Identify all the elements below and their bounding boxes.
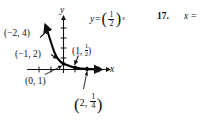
point-label-one-close: ) bbox=[88, 46, 91, 56]
equation-label: y = ( 1 2 )x bbox=[90, 11, 125, 28]
point-label-two: (2, 1 4 ) bbox=[74, 93, 102, 111]
fraction-one-quarter-numerator: 1 bbox=[90, 93, 96, 101]
point-label-zero: (0, 1) bbox=[25, 77, 46, 87]
point-label-two-x: 2, bbox=[80, 97, 90, 108]
point-label-neg2-close: ) bbox=[27, 28, 30, 38]
paren-close-eq: ) bbox=[116, 13, 121, 26]
leader-zero bbox=[45, 66, 62, 75]
leader-neg2 bbox=[40, 30, 48, 38]
point-label-neg1-close: ) bbox=[38, 49, 41, 59]
equation-relation: = bbox=[95, 15, 100, 25]
fraction-one-quarter-denominator: 4 bbox=[90, 101, 96, 110]
point-2-quarter bbox=[85, 67, 89, 71]
paren-open-eq: ( bbox=[102, 13, 107, 26]
point-0-1 bbox=[62, 62, 66, 66]
leader-two bbox=[84, 72, 88, 89]
figure-page: y x (−2, 4) (−1, 2) (0, 1) (1, 1 2 ) (2,… bbox=[0, 0, 219, 122]
equation-exponent: x bbox=[122, 16, 125, 22]
x-axis-label: x bbox=[110, 64, 114, 74]
point-label-neg2-open: (−2, bbox=[4, 28, 22, 38]
fraction-base-denominator: 2 bbox=[108, 19, 114, 28]
equation-lhs: y bbox=[90, 15, 94, 25]
point-label-one: (1, 1 2 ) bbox=[72, 43, 91, 58]
point-label-zero-close: ) bbox=[42, 76, 45, 86]
point-label-one-open: (1, bbox=[72, 46, 85, 56]
point-label-neg1: (−1, 2) bbox=[15, 50, 41, 60]
point-label-neg2: (−2, 4) bbox=[4, 29, 30, 39]
exercise-statement: x = bbox=[184, 11, 197, 21]
fraction-one-quarter: 1 4 bbox=[90, 93, 96, 111]
point-label-neg1-open: (−1, bbox=[15, 49, 33, 59]
paren-close-two: ) bbox=[97, 98, 103, 112]
point-label-zero-open: (0, bbox=[25, 76, 38, 86]
fraction-one-half-base: 1 2 bbox=[108, 11, 114, 28]
point-1-half bbox=[73, 66, 77, 70]
exercise-number: 17. bbox=[157, 11, 169, 21]
fraction-base-numerator: 1 bbox=[108, 11, 114, 19]
y-axis-label: y bbox=[60, 5, 64, 15]
